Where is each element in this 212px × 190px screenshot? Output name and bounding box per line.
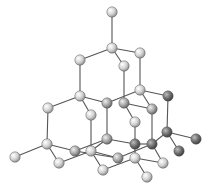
- atom-sphere: [119, 98, 129, 108]
- atom-sphere: [147, 139, 157, 149]
- atom-sphere: [113, 153, 123, 163]
- diamond-lattice-diagram: [0, 0, 212, 190]
- atom-sphere: [42, 139, 52, 149]
- atom-sphere: [135, 48, 145, 58]
- atom-sphere: [86, 110, 96, 120]
- atom-sphere: [130, 153, 140, 163]
- atom-sphere: [191, 134, 201, 144]
- atom-sphere: [75, 91, 85, 101]
- atom-sphere: [43, 103, 53, 113]
- atom-sphere: [10, 152, 20, 162]
- atom-sphere: [130, 139, 140, 149]
- atom-sphere: [102, 134, 112, 144]
- atom-sphere: [119, 61, 129, 71]
- atom-sphere: [102, 98, 112, 108]
- atom-sphere: [107, 43, 117, 53]
- atom-sphere: [163, 91, 173, 101]
- atom-sphere: [147, 104, 157, 114]
- atom-sphere: [130, 117, 140, 127]
- atom-sphere: [75, 55, 85, 65]
- atom-sphere: [142, 172, 152, 182]
- atom-sphere: [86, 146, 96, 156]
- atom-sphere: [98, 165, 108, 175]
- atom-sphere: [54, 158, 64, 168]
- atom-sphere: [70, 146, 80, 156]
- atom-sphere: [162, 127, 172, 137]
- atom-sphere: [107, 7, 117, 17]
- atom-sphere: [135, 85, 145, 95]
- atom-sphere: [174, 146, 184, 156]
- atom-sphere: [158, 158, 168, 168]
